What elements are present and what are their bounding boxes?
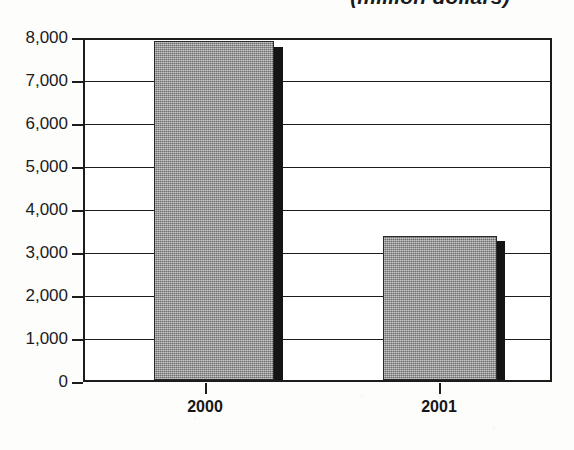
- y-axis-tick-4000: [72, 210, 83, 212]
- plot-area: [83, 38, 552, 382]
- y-axis-tick-5000: [72, 167, 83, 169]
- y-axis-label-8000: 8,000: [0, 28, 68, 48]
- y-axis-label-0: 0: [0, 372, 68, 392]
- y-axis-tick-0: [72, 382, 83, 384]
- y-axis-tick-1000: [72, 339, 83, 341]
- bar-2001-shadow: [497, 241, 505, 380]
- bar-2001-face: [383, 236, 497, 380]
- y-axis-label-2000: 2,000: [0, 286, 68, 306]
- y-axis-tick-7000: [72, 81, 83, 83]
- bar-2000-face: [154, 41, 274, 380]
- bar-2000-shadow: [274, 47, 283, 380]
- x-axis-label-2001: 2001: [394, 398, 484, 416]
- chart-page: (million dollars) 8,000 7,000 6,000 5,00…: [0, 0, 574, 450]
- y-axis-label-7000: 7,000: [0, 71, 68, 91]
- bar-2000[interactable]: [154, 41, 283, 380]
- y-axis-label-6000: 6,000: [0, 114, 68, 134]
- chart-title: (million dollars): [300, 0, 560, 9]
- x-axis-tick-2001: [439, 383, 441, 394]
- y-axis-tick-8000: [72, 38, 83, 40]
- y-axis-label-1000: 1,000: [0, 329, 68, 349]
- y-axis-tick-3000: [72, 253, 83, 255]
- y-axis-label-3000: 3,000: [0, 243, 68, 263]
- y-axis-label-5000: 5,000: [0, 157, 68, 177]
- y-axis-tick-6000: [72, 124, 83, 126]
- x-axis-label-2000: 2000: [160, 398, 250, 416]
- bar-2001[interactable]: [383, 236, 505, 380]
- y-axis-label-4000: 4,000: [0, 200, 68, 220]
- x-axis-tick-2000: [205, 383, 207, 394]
- y-axis-labels: 8,000 7,000 6,000 5,000 4,000 3,000 2,00…: [0, 0, 70, 450]
- y-axis-tick-2000: [72, 296, 83, 298]
